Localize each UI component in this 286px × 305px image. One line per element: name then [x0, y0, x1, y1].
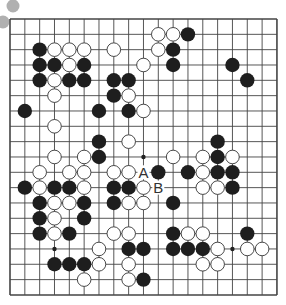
white-stone [196, 166, 210, 180]
white-stone [48, 120, 62, 134]
white-stone [226, 150, 240, 164]
black-stone [166, 58, 180, 72]
black-stone [92, 104, 106, 118]
black-stone [210, 134, 224, 148]
black-stone [47, 58, 61, 72]
black-stone [32, 196, 46, 210]
black-stone [166, 42, 180, 56]
black-stone [77, 211, 91, 225]
white-stone [63, 196, 77, 210]
black-stone [18, 180, 32, 194]
white-stone [48, 43, 62, 57]
black-stone [77, 73, 91, 87]
white-stone [63, 166, 77, 180]
black-stone [107, 180, 121, 194]
black-stone [210, 150, 224, 164]
white-stone [196, 150, 210, 164]
black-stone [210, 165, 224, 179]
gray-dot-icon [0, 16, 10, 29]
black-stone [121, 73, 135, 87]
black-stone [121, 180, 135, 194]
black-stone [121, 242, 135, 256]
black-stone [77, 58, 91, 72]
black-stone [77, 257, 91, 271]
black-stone [181, 165, 195, 179]
white-stone [122, 166, 136, 180]
black-stone [47, 257, 61, 271]
white-stone [255, 242, 269, 256]
black-stone [181, 242, 195, 256]
white-stone [33, 181, 47, 195]
white-stone [63, 58, 77, 72]
white-stone [211, 242, 225, 256]
white-stone [166, 150, 180, 164]
white-stone [211, 257, 225, 271]
black-stone [32, 58, 46, 72]
white-stone [63, 43, 77, 57]
white-stone [196, 227, 210, 241]
white-stone [152, 28, 166, 42]
black-stone [151, 165, 165, 179]
black-stone [62, 226, 76, 240]
black-stone [92, 150, 106, 164]
white-stone [77, 181, 91, 195]
white-stone [48, 89, 62, 103]
black-stone [32, 73, 46, 87]
white-stone [92, 242, 106, 256]
white-stone [107, 166, 121, 180]
white-stone [107, 43, 121, 57]
point-label-b: B [153, 179, 163, 196]
white-stone [48, 196, 62, 210]
white-stone [48, 74, 62, 88]
black-stone [121, 104, 135, 118]
go-board[interactable]: AB [0, 0, 286, 305]
gray-dot-icon [7, 0, 20, 13]
white-stone [107, 227, 121, 241]
black-stone [181, 27, 195, 41]
black-stone [225, 58, 239, 72]
white-stone [48, 150, 62, 164]
star-point-icon [230, 247, 234, 251]
white-stone [48, 211, 62, 225]
white-stone [137, 181, 151, 195]
white-stone [122, 89, 136, 103]
black-stone [62, 73, 76, 87]
black-stone [107, 73, 121, 87]
white-stone [137, 196, 151, 210]
black-stone [107, 196, 121, 210]
black-stone [240, 73, 254, 87]
white-stone [152, 43, 166, 57]
black-stone [225, 165, 239, 179]
black-stone [225, 180, 239, 194]
white-stone [33, 166, 47, 180]
white-stone [240, 242, 254, 256]
black-stone [92, 134, 106, 148]
black-stone [47, 180, 61, 194]
white-stone [122, 196, 136, 210]
white-stone [48, 227, 62, 241]
white-stone [92, 257, 106, 271]
white-stone [211, 181, 225, 195]
white-stone [77, 166, 91, 180]
black-stone [62, 180, 76, 194]
white-stone [137, 104, 151, 118]
white-stone [181, 227, 195, 241]
black-stone [166, 226, 180, 240]
star-point-icon [141, 155, 145, 159]
black-stone [196, 242, 210, 256]
white-stone [196, 257, 210, 271]
black-stone [166, 242, 180, 256]
white-stone [122, 257, 136, 271]
black-stone [32, 226, 46, 240]
white-stone [77, 43, 91, 57]
black-stone [62, 257, 76, 271]
point-label-a: A [138, 164, 148, 181]
white-stone [122, 135, 136, 149]
black-stone [136, 242, 150, 256]
black-stone [18, 104, 32, 118]
white-stone [122, 227, 136, 241]
black-stone [77, 196, 91, 210]
white-stone [77, 150, 91, 164]
white-stone [77, 273, 91, 287]
white-stone [196, 181, 210, 195]
